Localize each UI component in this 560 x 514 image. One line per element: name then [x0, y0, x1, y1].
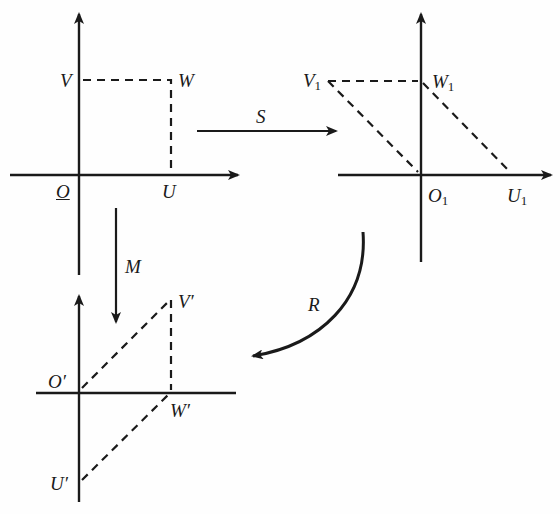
panel-sheared — [328, 14, 551, 262]
label-w1: W1 — [432, 72, 454, 93]
panel-original — [10, 14, 238, 275]
rect-dashed — [83, 80, 171, 170]
label-o-prime: O′ — [48, 372, 66, 391]
label-v-prime: V′ — [178, 292, 194, 311]
label-u1: U1 — [507, 186, 527, 207]
label-w-prime: W′ — [170, 401, 190, 420]
label-u: U — [162, 182, 176, 201]
label-r: R — [308, 295, 320, 314]
label-v1: V1 — [303, 71, 321, 92]
label-u-prime: U′ — [50, 474, 68, 493]
diagram-drawing — [0, 0, 560, 514]
label-o: O — [56, 182, 70, 201]
label-o1: O1 — [428, 186, 448, 207]
panel-mapped — [36, 296, 236, 502]
label-v: V — [60, 71, 72, 90]
transformation-diagram: V W O U S M R V1 W1 O1 U1 V′ O′ W′ U′ — [0, 0, 560, 514]
label-m: M — [125, 257, 141, 276]
label-s: S — [256, 107, 266, 126]
label-w: W — [178, 71, 194, 90]
